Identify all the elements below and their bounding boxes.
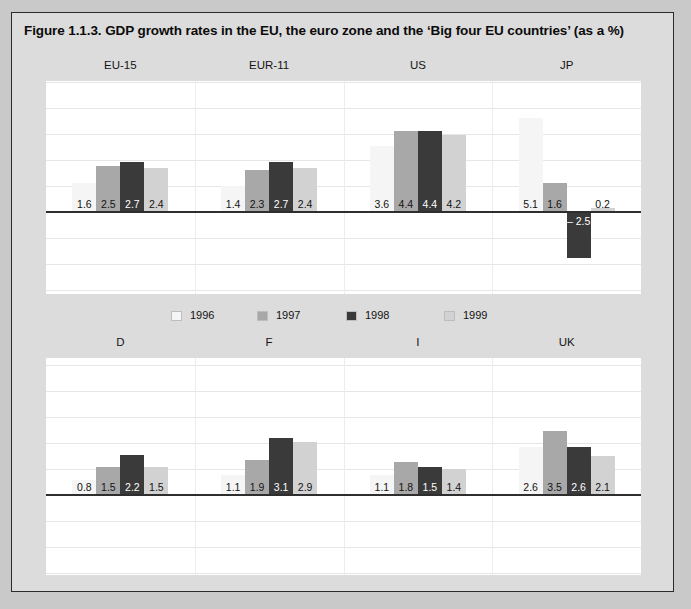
bar-value-label: – 2.5 xyxy=(567,215,591,227)
bar-value-label: 2.9 xyxy=(293,481,317,493)
bar-value-label: 1.1 xyxy=(221,481,245,493)
bar-value-label: 1.5 xyxy=(418,481,442,493)
legend-swatch-1999 xyxy=(444,311,455,321)
bar-value-label: 3.6 xyxy=(370,198,394,210)
legend-swatch-1997 xyxy=(257,311,268,321)
group-separator xyxy=(492,81,493,294)
panel-top-plot-area: 1.62.52.72.41.42.32.72.43.64.44.44.25.11… xyxy=(46,81,641,294)
panel-bottom-category-headers: DFIUK xyxy=(12,336,673,354)
bar-value-label: 0.8 xyxy=(72,481,96,493)
category-label-us: US xyxy=(344,59,493,71)
group-separator xyxy=(195,81,196,294)
bar-value-label: 3.1 xyxy=(269,481,293,493)
bar-value-label: 1.8 xyxy=(394,481,418,493)
bar-value-label: 0.2 xyxy=(591,198,615,210)
legend-swatch-1996 xyxy=(171,311,182,321)
bar-value-label: 1.5 xyxy=(144,481,168,493)
category-label-eu-15: EU-15 xyxy=(46,59,195,71)
bar-value-label: 5.1 xyxy=(519,198,543,210)
bar-value-label: 4.4 xyxy=(394,198,418,210)
panel-bottom-plot-area: 0.81.52.21.51.11.93.12.91.11.81.51.42.63… xyxy=(46,358,641,575)
legend-label-1999: 1999 xyxy=(463,309,487,321)
bar-value-label: 2.2 xyxy=(120,481,144,493)
group-separator xyxy=(344,358,345,575)
bar-value-label: 4.2 xyxy=(442,198,466,210)
category-label-i: I xyxy=(344,336,493,348)
category-label-uk: UK xyxy=(492,336,641,348)
legend-label-1998: 1998 xyxy=(365,309,389,321)
panel-top-category-headers: EU-15EUR-11USJP xyxy=(12,59,673,77)
figure-page: Figure 1.1.3. GDP growth rates in the EU… xyxy=(0,0,691,609)
bar-value-label: 3.5 xyxy=(543,481,567,493)
figure-title: Figure 1.1.3. GDP growth rates in the EU… xyxy=(24,23,624,38)
bar-value-label: 1.4 xyxy=(442,481,466,493)
group-separator xyxy=(344,81,345,294)
zero-axis-line xyxy=(46,494,641,496)
bar-value-label: 2.6 xyxy=(519,481,543,493)
legend-label-1997: 1997 xyxy=(276,309,300,321)
bar-value-label: 1.6 xyxy=(72,198,96,210)
chart-legend: 1996199719981999 xyxy=(12,308,673,324)
figure-frame: Figure 1.1.3. GDP growth rates in the EU… xyxy=(11,12,674,592)
legend-swatch-1998 xyxy=(346,311,357,321)
bar-value-label: 4.4 xyxy=(418,198,442,210)
bar-value-label: 2.3 xyxy=(245,198,269,210)
category-label-f: F xyxy=(195,336,344,348)
bar-value-label: 1.9 xyxy=(245,481,269,493)
bar-value-label: 2.7 xyxy=(269,198,293,210)
bar-value-label: 1.1 xyxy=(370,481,394,493)
bar-value-label: 2.1 xyxy=(591,481,615,493)
zero-axis-line xyxy=(46,211,641,213)
bar-value-label: 2.5 xyxy=(96,198,120,210)
bar-value-label: 1.5 xyxy=(96,481,120,493)
bar-value-label: 2.4 xyxy=(144,198,168,210)
group-separator xyxy=(492,358,493,575)
category-label-jp: JP xyxy=(492,59,641,71)
bar-value-label: 2.7 xyxy=(120,198,144,210)
group-separator xyxy=(195,358,196,575)
bar-value-label: 1.6 xyxy=(543,198,567,210)
category-label-d: D xyxy=(46,336,195,348)
category-label-eur-11: EUR-11 xyxy=(195,59,344,71)
bar-value-label: 1.4 xyxy=(221,198,245,210)
legend-label-1996: 1996 xyxy=(190,309,214,321)
bar-value-label: 2.4 xyxy=(293,198,317,210)
bar-value-label: 2.6 xyxy=(567,481,591,493)
